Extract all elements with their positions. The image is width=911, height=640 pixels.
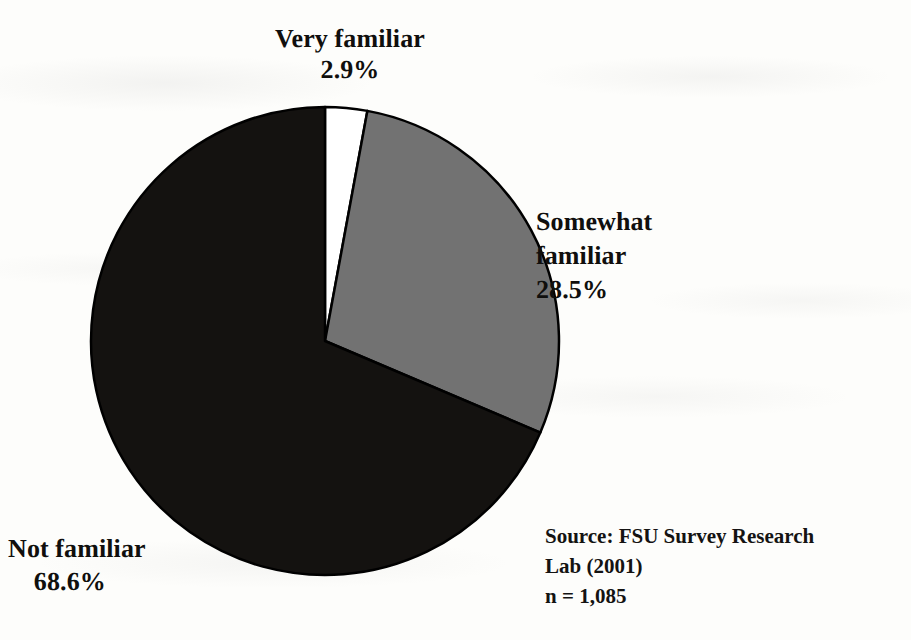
source-citation-line1: Source: FSU Survey Research	[545, 522, 885, 552]
slice-label-very-familiar-name: Very familiar	[275, 24, 425, 53]
slice-label-not-familiar-percent: 68.6%	[8, 565, 146, 598]
source-citation: Source: FSU Survey Research Lab (2001) n…	[545, 522, 885, 611]
slice-label-somewhat-familiar-line2: familiar	[536, 241, 626, 270]
source-citation-sample-size: n = 1,085	[545, 582, 885, 612]
pie-slice-group	[91, 107, 559, 575]
slice-label-very-familiar: Very familiar 2.9%	[190, 24, 510, 85]
slice-label-not-familiar: Not familiar 68.6%	[8, 532, 146, 599]
slice-label-somewhat-familiar: Somewhat familiar 28.5%	[536, 205, 652, 306]
slice-label-very-familiar-percent: 2.9%	[190, 55, 510, 86]
slice-label-not-familiar-name: Not familiar	[8, 534, 146, 563]
source-citation-line2: Lab (2001)	[545, 552, 885, 582]
slice-label-somewhat-familiar-line1: Somewhat	[536, 207, 652, 236]
pie-chart-figure: Very familiar 2.9% Somewhat familiar 28.…	[0, 0, 911, 640]
slice-label-somewhat-familiar-percent: 28.5%	[536, 273, 652, 307]
